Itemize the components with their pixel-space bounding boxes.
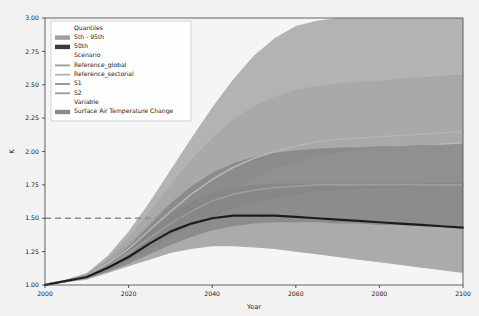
legend-group-title: Variable [74, 98, 99, 105]
legend-entry-label: Surface Air Temperature Change [74, 107, 174, 115]
y-tick-label: 1.00 [25, 281, 39, 288]
legend-swatch-patch [55, 45, 70, 49]
y-tick-label: 1.50 [25, 214, 39, 221]
legend-entry-label: Reference_sectorial [74, 70, 134, 78]
y-axis-title: K [8, 149, 16, 154]
legend-group-title: Scenario [74, 51, 101, 58]
y-tick-label: 1.25 [25, 248, 39, 255]
x-tick-label: 2040 [204, 290, 220, 297]
legend-entry-label: S2 [74, 89, 82, 96]
legend-entry-label: 50th [74, 42, 88, 49]
temperature-fan-chart: 200020202040206020802100 1.001.251.501.7… [0, 0, 479, 316]
y-tick-label: 1.75 [25, 181, 39, 188]
x-tick-label: 2080 [372, 290, 388, 297]
x-tick-label: 2000 [37, 290, 53, 297]
x-tick-label: 2020 [121, 290, 137, 297]
x-tick-label: 2060 [288, 290, 304, 297]
x-tick-label: 2100 [455, 290, 471, 297]
y-tick-label: 2.00 [25, 148, 39, 155]
y-tick-label: 3.00 [25, 14, 39, 21]
y-tick-label: 2.75 [25, 48, 39, 55]
y-tick-label: 2.50 [25, 81, 39, 88]
y-tick-label: 2.25 [25, 114, 39, 121]
legend-group-title: Quantiles [74, 24, 103, 31]
legend-entry-label: 5th - 95th [74, 33, 104, 40]
legend-swatch-patch [55, 110, 70, 114]
chart-figure: 200020202040206020802100 1.001.251.501.7… [0, 0, 479, 316]
chart-legend: Quantiles5th - 95th50thScenarioReference… [51, 21, 191, 121]
legend-entry-label: Reference_global [74, 61, 127, 69]
legend-entry-label: S1 [74, 79, 82, 86]
x-axis-title: Year [246, 303, 261, 311]
legend-swatch-patch [55, 35, 70, 39]
